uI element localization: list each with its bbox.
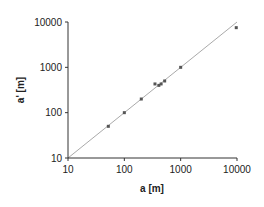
data-point bbox=[107, 125, 110, 128]
plot-area bbox=[68, 22, 238, 158]
data-point bbox=[163, 79, 166, 82]
y-tick-label: 1000 bbox=[40, 62, 63, 73]
data-point bbox=[153, 82, 156, 85]
x-axis-ticks: 10100100010000 bbox=[62, 158, 251, 175]
x-tick-label: 10 bbox=[62, 164, 74, 175]
y-tick-label: 10000 bbox=[34, 17, 62, 28]
x-tick-label: 10000 bbox=[223, 164, 251, 175]
x-tick-label: 100 bbox=[116, 164, 133, 175]
data-point bbox=[160, 82, 163, 85]
y-tick-label: 100 bbox=[45, 107, 62, 118]
data-point bbox=[235, 26, 238, 29]
data-point bbox=[123, 111, 126, 114]
y-axis-ticks: 10100100010000 bbox=[34, 17, 68, 164]
y-axis-title: a' [m] bbox=[15, 77, 26, 103]
scatter-chart: 10100100010000 10100100010000 a [m] a' [… bbox=[0, 0, 264, 207]
data-point bbox=[179, 66, 182, 69]
reference-line bbox=[68, 22, 237, 158]
data-point bbox=[140, 98, 143, 101]
y-tick-label: 10 bbox=[51, 153, 63, 164]
x-axis-title: a [m] bbox=[140, 183, 164, 194]
x-tick-label: 1000 bbox=[170, 164, 193, 175]
